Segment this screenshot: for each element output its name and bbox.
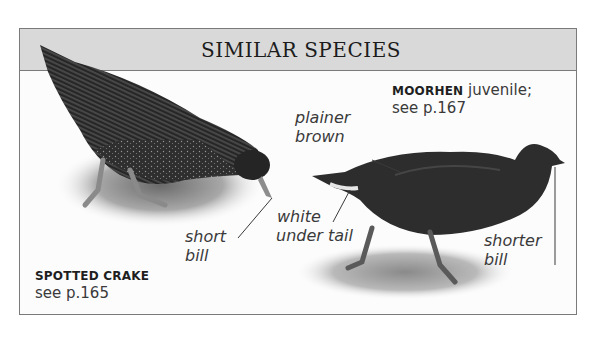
annotation-white-under-tail: white under tail xyxy=(276,207,353,245)
annotation-line: under tail xyxy=(276,226,353,245)
annotation-short-bill: short bill xyxy=(185,227,226,265)
spotted-crake-caption: SPOTTED CRAKE see p.165 xyxy=(35,268,149,302)
annotation-line: shorter xyxy=(484,231,542,250)
annotation-line: brown xyxy=(295,127,350,146)
annotation-line: white xyxy=(276,207,353,226)
annotation-line: bill xyxy=(185,246,226,265)
page-reference: see p.165 xyxy=(35,285,149,302)
species-name: MOORHEN xyxy=(392,84,463,98)
spotted-crake-illustration xyxy=(40,45,272,227)
annotation-plainer-brown: plainer brown xyxy=(295,108,350,146)
page-reference: see p.167 xyxy=(392,100,532,117)
species-name: SPOTTED CRAKE xyxy=(35,268,149,285)
moorhen-caption: MOORHEN juvenile; see p.167 xyxy=(392,82,532,117)
annotation-line: bill xyxy=(484,250,542,269)
annotation-line: plainer xyxy=(295,108,350,127)
annotation-line: short xyxy=(185,227,226,246)
annotation-shorter-bill: shorter bill xyxy=(484,231,542,269)
species-qualifier: juvenile; xyxy=(463,81,532,99)
